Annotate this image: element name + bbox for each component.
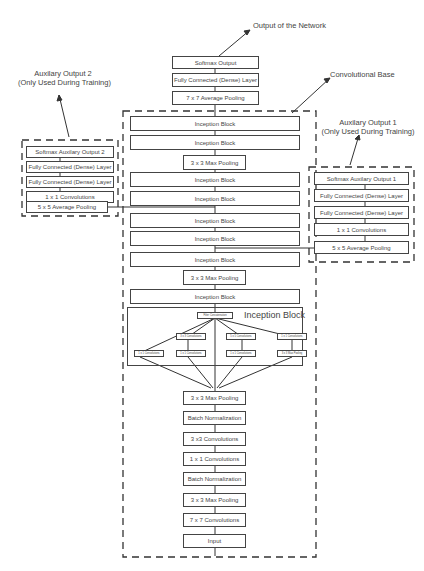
inception-block-box: Inception Block bbox=[130, 116, 300, 131]
aux2-label: Auxilary Output 2 (Only Used During Trai… bbox=[18, 69, 108, 88]
input-box: Input bbox=[183, 534, 246, 548]
conv-1x1-box: 1 x 1 Convolutions bbox=[134, 350, 164, 357]
aux1-label: Auxilary Output 1 (Only Used During Trai… bbox=[318, 118, 418, 137]
max-pool-box: 3 x 3 Max Pooling bbox=[183, 391, 246, 405]
aux1-dense-box: Fully Connected (Dense) Layer bbox=[314, 189, 409, 202]
filter-concat-box: Filter Concatenation bbox=[197, 312, 233, 319]
inception-block-title: Inception Block bbox=[244, 310, 305, 320]
aux2-softmax-box: Softmax Auxilary Output 2 bbox=[26, 146, 114, 158]
max-pool-box: 3 x 3 Max Pooling bbox=[183, 155, 246, 170]
conv-1x1-box: 1 x 1 Convolutions bbox=[277, 333, 307, 340]
convolutional-base-label: Convolutional Base bbox=[330, 70, 395, 79]
inception-block-box: Inception Block bbox=[130, 252, 300, 267]
max-pool-box: 3 x 3 Max Pooling bbox=[183, 270, 246, 285]
conv-1x1-box: 1 x 1 Convolutions bbox=[226, 350, 256, 357]
inception-block-box: Inception Block bbox=[130, 289, 300, 304]
aux1-title: Auxilary Output 1 bbox=[318, 118, 418, 127]
aux1-softmax-box: Softmax Auxilary Output 1 bbox=[314, 172, 409, 185]
aux2-dense-box: Fully Connected (Dense) Layer bbox=[26, 161, 114, 173]
aux1-avg-pool-box: 5 x 5 Average Pooling bbox=[314, 241, 409, 254]
conv-1x1-box: 1 x 1 Convolutions bbox=[183, 452, 246, 466]
batch-norm-box: Batch Normalization bbox=[183, 472, 246, 486]
conv-5x5-box: 5 x 5 Convolutions bbox=[226, 333, 256, 340]
inception-block-box: Inception Block bbox=[130, 213, 300, 228]
aux2-title: Auxilary Output 2 bbox=[18, 69, 108, 78]
inception-block-box: Inception Block bbox=[130, 231, 300, 246]
inception-block-box: Inception Block bbox=[130, 135, 300, 150]
max-pool-3x3-box: 3 x 3 Max Pooling bbox=[277, 350, 307, 357]
dense-layer-box: Fully Connected (Dense) Layer bbox=[172, 73, 259, 87]
conv-1x1-box: 1 x 1 Convolutions bbox=[176, 350, 206, 357]
output-of-network-label: Output of the Network bbox=[253, 21, 326, 30]
conv-3x3-box: 3 x3 Convolutions bbox=[183, 432, 246, 446]
aux2-avg-pool-box: 5 x 5 Average Pooling bbox=[26, 201, 108, 213]
max-pool-box: 3 x 3 Max Pooling bbox=[183, 493, 246, 507]
softmax-output-box: Softmax Output bbox=[172, 56, 259, 69]
aux2-dense-box: Fully Connected (Dense) Layer bbox=[26, 176, 114, 188]
conv-7x7-box: 7 x 7 Convolutions bbox=[183, 513, 246, 527]
aux2-subtitle: (Only Used During Training) bbox=[18, 78, 108, 87]
inception-block-box: Inception Block bbox=[130, 172, 300, 187]
aux1-dense-box: Fully Connected (Dense) Layer bbox=[314, 206, 409, 219]
batch-norm-box: Batch Normalization bbox=[183, 411, 246, 425]
inception-block-box: Inception Block bbox=[130, 191, 300, 206]
avg-pool-7x7-box: 7 x 7 Average Pooling bbox=[172, 91, 259, 105]
conv-3x3-box: 3 x 3 Convolutions bbox=[176, 333, 206, 340]
aux1-conv-1x1-box: 1 x 1 Convolutions bbox=[314, 223, 409, 236]
aux1-subtitle: (Only Used During Training) bbox=[318, 127, 418, 136]
